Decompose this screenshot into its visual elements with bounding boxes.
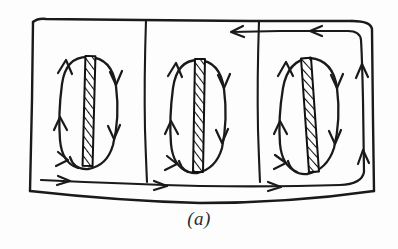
hatched-rod-2 (193, 59, 205, 172)
cell-1-arrow-mid-right (108, 125, 120, 139)
divider-2 (258, 21, 260, 182)
hatched-rod-3 (301, 58, 319, 172)
top-return-line (232, 31, 348, 32)
cell-1 (54, 56, 122, 169)
cell-2 (165, 59, 230, 173)
cell-1-arrow-low-left (56, 152, 68, 166)
ink-layer (30, 19, 374, 203)
duct-outline-left (30, 22, 33, 191)
bottom-inflow-line (41, 172, 364, 186)
cell-2-arrow-mid-right (216, 129, 228, 143)
hatched-rod-1 (83, 56, 96, 166)
cell-3-arrow-mid-right (329, 130, 341, 144)
duct-outline-top (33, 19, 352, 22)
divider-1 (145, 20, 147, 182)
cell-3 (274, 58, 343, 174)
cell-3-arrow-low-left (274, 155, 286, 169)
cell-2-arrow-top-left (168, 63, 182, 77)
figure-caption: (a) (0, 208, 398, 230)
figure-root: (a) (0, 0, 398, 249)
duct-outline-bottom (30, 191, 374, 203)
